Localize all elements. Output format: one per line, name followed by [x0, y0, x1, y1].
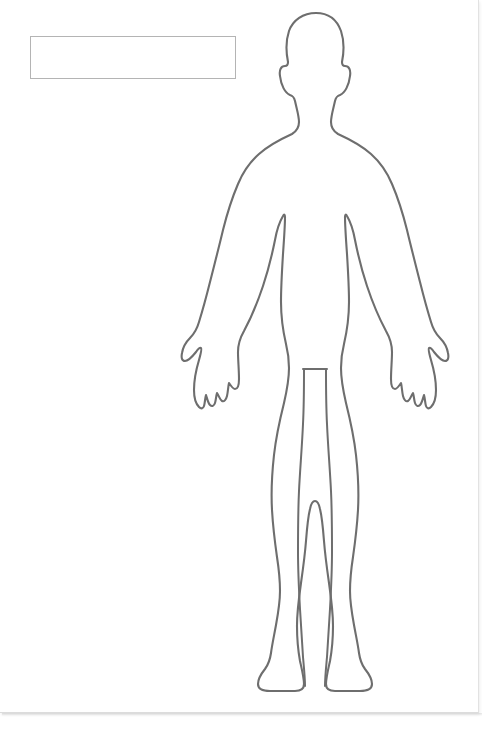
body-diagram-page — [0, 0, 491, 734]
page-edge-shadow — [2, 713, 482, 716]
annotation-text-box[interactable] — [30, 36, 236, 79]
page-surface — [0, 0, 479, 713]
